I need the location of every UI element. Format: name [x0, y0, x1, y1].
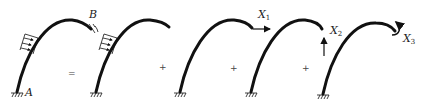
fixed-support-icon: [174, 93, 186, 97]
arch-member: [96, 20, 169, 92]
arch-member: [251, 20, 322, 92]
fixed-support-icon: [90, 93, 102, 97]
superposition-diagram: A B = + X1 + X: [0, 0, 424, 106]
operator-plus: +: [302, 63, 310, 73]
arch-member: [17, 20, 91, 92]
force-label-x2: X2: [329, 24, 342, 38]
operator-plus: +: [230, 63, 238, 73]
arch-member: [180, 20, 252, 92]
support-label-a: A: [24, 86, 33, 99]
panel-original: A B: [11, 8, 98, 99]
operator-equals: =: [68, 68, 76, 78]
force-label-x1: X1: [257, 8, 270, 22]
panel-basic-with-load: [90, 20, 169, 97]
operator-plus: +: [159, 62, 167, 72]
force-label-x3: X3: [402, 32, 415, 46]
fixed-support-icon: [245, 93, 257, 97]
support-label-b: B: [88, 8, 97, 21]
panel-redundant-x2: X2: [245, 20, 342, 97]
panel-redundant-x1: X1: [174, 8, 270, 97]
fixed-support-a-icon: [11, 93, 23, 97]
fixed-support-icon: [317, 95, 329, 99]
